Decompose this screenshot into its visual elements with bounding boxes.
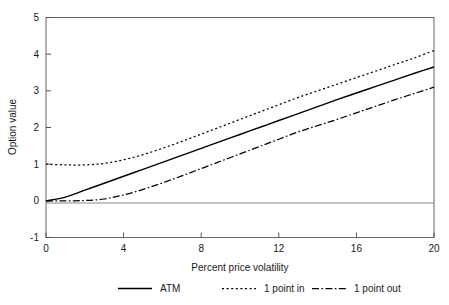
x-tick-label: 16 (351, 243, 363, 254)
chart-canvas: -1012345 048121620 Option value Percent … (0, 0, 449, 305)
y-tick-label: 4 (33, 49, 39, 60)
y-tick-label: 1 (33, 159, 39, 170)
y-axis-title: Option value (7, 98, 18, 155)
x-tick-label: 0 (43, 243, 49, 254)
y-axis-tick-labels: -1012345 (30, 12, 39, 243)
y-tick-label: 0 (33, 195, 39, 206)
legend-label-1-point-out: 1 point out (354, 283, 401, 294)
plot-frame (46, 18, 434, 238)
chart-figure: -1012345 048121620 Option value Percent … (0, 0, 449, 305)
y-tick-label: 3 (33, 85, 39, 96)
y-tick-label: 5 (33, 12, 39, 23)
y-tick-label: 2 (33, 122, 39, 133)
y-tick-label: -1 (30, 232, 39, 243)
legend-label-atm: ATM (160, 283, 180, 294)
x-tick-label: 12 (273, 243, 285, 254)
x-tick-label: 20 (428, 243, 440, 254)
x-tick-label: 4 (121, 243, 127, 254)
legend-label-1-point-in: 1 point in (264, 283, 305, 294)
x-tick-label: 8 (198, 243, 204, 254)
x-axis-title: Percent price volatility (191, 262, 288, 273)
chart-legend: ATM1 point in1 point out (118, 283, 401, 294)
x-axis-tick-labels: 048121620 (43, 243, 440, 254)
